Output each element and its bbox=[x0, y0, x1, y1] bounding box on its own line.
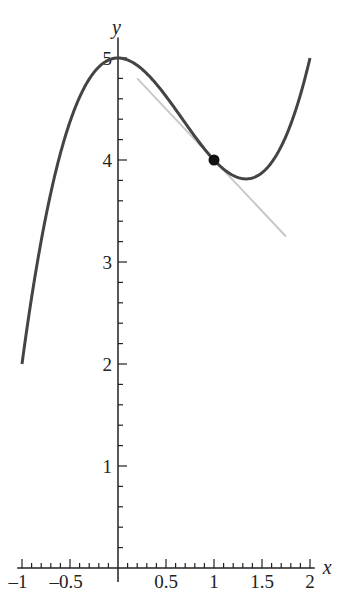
y-tick-label: 1 bbox=[103, 456, 113, 477]
y-tick-label: 3 bbox=[103, 252, 113, 273]
x-tick-label: –1 bbox=[8, 571, 28, 592]
x-tick-label: 1 bbox=[209, 571, 219, 592]
tangent-point bbox=[209, 155, 220, 166]
x-tick-label: –0.5 bbox=[48, 571, 82, 592]
y-tick-label: 4 bbox=[103, 150, 113, 171]
x-axis-label: x bbox=[322, 556, 332, 578]
x-tick-label: 1.5 bbox=[250, 571, 274, 592]
chart: –1–0.50.511.5212345xy bbox=[0, 0, 355, 609]
x-tick-label: 0.5 bbox=[154, 571, 178, 592]
y-axis-label: y bbox=[110, 16, 121, 39]
x-tick-label: 2 bbox=[305, 571, 315, 592]
y-tick-label: 2 bbox=[103, 354, 113, 375]
function-curve bbox=[22, 58, 310, 364]
